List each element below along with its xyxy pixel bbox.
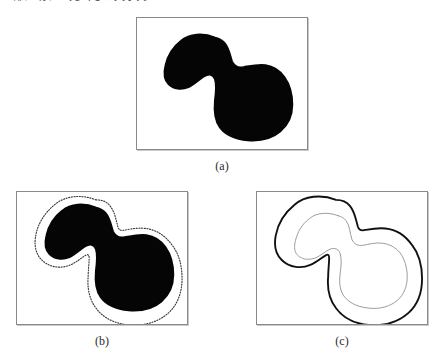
caption-b: (b) xyxy=(62,334,142,348)
panel-a-figure xyxy=(137,18,307,149)
panel-c-figure xyxy=(257,192,427,324)
panel-b-figure xyxy=(17,192,187,324)
header-text-strip: 上部に切れた見出しの文字列 xyxy=(0,0,448,7)
panel-c xyxy=(256,191,428,325)
caption-c: (c) xyxy=(302,334,382,348)
panel-b xyxy=(16,191,188,325)
panel-a xyxy=(136,17,308,150)
header-partial-text: 上部に切れた見出しの文字列 xyxy=(2,0,148,3)
panel-c-background xyxy=(257,192,427,324)
caption-a: (a) xyxy=(182,159,262,173)
